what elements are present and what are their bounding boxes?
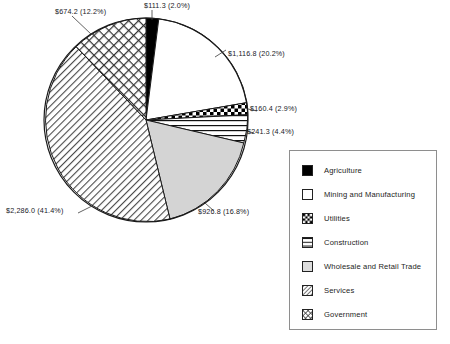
diagonal-hatch-swatch <box>302 285 313 296</box>
legend-item-utilities[interactable]: Utilities <box>290 206 436 230</box>
legend-label-services: Services <box>324 286 354 295</box>
legend-item-agriculture[interactable]: Agriculture <box>290 158 436 182</box>
legend-item-services[interactable]: Services <box>290 278 436 302</box>
light-gray-swatch <box>302 261 313 272</box>
legend-label-mining-and-manufacturing: Mining and Manufacturing <box>324 190 415 199</box>
pie-slices <box>44 18 248 222</box>
solid-white-swatch <box>302 189 313 200</box>
callout-utilities: $160.4 (2.9%) <box>250 105 297 113</box>
pie-chart-figure: $111.3 (2.0%) $674.2 (12.2%) $1,116.8 (2… <box>0 0 450 344</box>
legend-item-government[interactable]: Government <box>290 302 436 326</box>
legend-item-wholesale-and-retail-trade[interactable]: Wholesale and Retail Trade <box>290 254 436 278</box>
leader-government <box>72 16 92 35</box>
callout-government: $674.2 (12.2%) <box>55 8 106 16</box>
legend-label-construction: Construction <box>324 238 368 247</box>
callout-mining: $1,116.8 (20.2%) <box>228 50 285 58</box>
callout-services: $2,286.0 (41.4%) <box>6 207 63 215</box>
callout-agriculture: $111.3 (2.0%) <box>144 2 190 10</box>
legend: Agriculture Mining and Manufacturing Uti… <box>289 150 437 330</box>
legend-label-utilities: Utilities <box>324 214 350 223</box>
callout-construction: $241.3 (4.4%) <box>247 128 294 136</box>
checkerboard-swatch <box>302 213 313 224</box>
legend-item-construction[interactable]: Construction <box>290 230 436 254</box>
horizontal-lines-swatch <box>302 237 313 248</box>
callout-wholesale: $926.8 (16.8%) <box>198 208 249 216</box>
legend-list: Agriculture Mining and Manufacturing Uti… <box>290 151 436 329</box>
cross-hatch-swatch <box>302 309 313 320</box>
legend-label-agriculture: Agriculture <box>324 166 362 175</box>
legend-label-wholesale-and-retail-trade: Wholesale and Retail Trade <box>324 262 421 271</box>
legend-label-government: Government <box>324 310 367 319</box>
leader-services <box>78 206 92 213</box>
solid-black-swatch <box>302 165 313 176</box>
legend-item-mining-and-manufacturing[interactable]: Mining and Manufacturing <box>290 182 436 206</box>
